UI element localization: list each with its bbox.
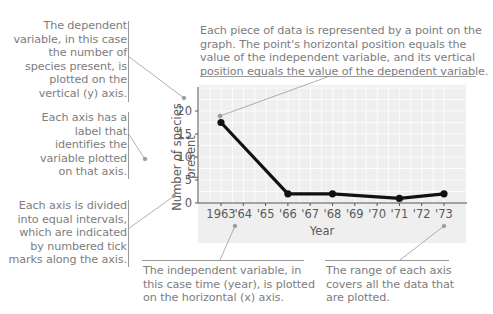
annotation-line: The range of each axis <box>326 264 454 278</box>
annotation-bracket <box>128 21 129 102</box>
leader-dot <box>172 194 176 198</box>
annotation-line: identifies the <box>40 138 127 152</box>
annotation-axis-label: Each axis has a label that identifies th… <box>40 111 127 179</box>
leader-dot <box>182 96 186 100</box>
data-point <box>329 190 336 197</box>
x-tick-label: '64 <box>234 207 252 221</box>
annotation-line: on the horizontal (x) axis. <box>143 291 315 305</box>
y-axis-title-line2: present <box>184 135 198 179</box>
annotation-line: by numbered tick <box>8 240 127 254</box>
annotation-line: are plotted. <box>326 291 454 305</box>
leader-dot <box>143 157 147 161</box>
annotation-line: marks along the axis. <box>8 253 127 267</box>
annotation-data-point: Each piece of data is represented by a p… <box>200 24 488 78</box>
annotation-range: The range of each axis covers all the da… <box>326 264 454 305</box>
annotation-line: variable plotted <box>40 152 127 166</box>
x-tick-label: '69 <box>346 207 364 221</box>
annotation-intervals: Each axis is divided into equal interval… <box>8 199 127 267</box>
annotation-line: the number of <box>14 46 128 60</box>
grid-lines <box>199 86 466 203</box>
annotation-line: which are indicated <box>8 226 127 240</box>
x-tick-label: '71 <box>391 207 409 221</box>
annotation-line: species present, is <box>14 60 128 74</box>
annotation-line: into equal intervals, <box>8 213 127 227</box>
annotation-line: Each axis is divided <box>8 199 127 213</box>
x-tick-label: '66 <box>279 207 297 221</box>
annotation-line: plotted on the <box>14 73 128 87</box>
annotation-overline <box>142 260 304 261</box>
x-axis-ticks: 1963'64'65'66'67'68'69'70'71'72'73 <box>206 203 453 221</box>
annotation-line: Each axis has a <box>40 111 127 125</box>
y-tick-label: 0 <box>185 196 192 210</box>
annotation-line: variable, in this case <box>14 33 128 47</box>
annotation-line: graph. The point's horizontal position e… <box>200 38 488 52</box>
annotation-line: label that <box>40 125 127 139</box>
leader-dot <box>442 224 446 228</box>
annotation-line: this case time (year), is plotted <box>143 278 315 292</box>
x-axis-title: Year <box>309 224 335 238</box>
annotation-line: value of the independent variable, and i… <box>200 51 488 65</box>
x-tick-label: '65 <box>257 207 275 221</box>
annotation-line: covers all the data that <box>326 278 454 292</box>
data-point <box>440 190 447 197</box>
x-tick-label: '72 <box>413 207 431 221</box>
annotation-overline <box>325 260 449 261</box>
annotation-dependent-variable: The dependent variable, in this case the… <box>14 19 128 101</box>
annotation-line: on that axis. <box>40 165 127 179</box>
annotation-line: Each piece of data is represented by a p… <box>200 24 488 38</box>
x-tick-label: '70 <box>368 207 386 221</box>
annotation-line: vertical (y) axis. <box>14 87 128 101</box>
data-point <box>217 119 224 126</box>
annotation-independent-variable: The independent variable, in this case t… <box>143 264 315 305</box>
annotation-bracket <box>128 112 129 179</box>
x-tick-label: '68 <box>324 207 342 221</box>
data-point <box>396 195 403 202</box>
annotation-bracket <box>128 200 129 267</box>
annotation-line: The dependent <box>14 19 128 33</box>
data-point <box>284 190 291 197</box>
y-axis-title: Number of species <box>170 103 184 211</box>
x-tick-label: 1963 <box>206 207 235 221</box>
leader-dot <box>233 224 237 228</box>
x-tick-label: '73 <box>435 207 453 221</box>
annotation-line: The independent variable, in <box>143 264 315 278</box>
leader-dot <box>218 114 222 118</box>
x-tick-label: '67 <box>301 207 319 221</box>
annotation-underline <box>200 76 476 77</box>
